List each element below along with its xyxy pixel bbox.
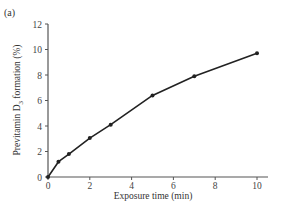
axes (48, 24, 268, 177)
data-point (151, 93, 155, 97)
x-tick-label: 4 (129, 181, 134, 191)
line-chart: (a) 024681012 0246810 Exposure time (min… (0, 0, 282, 222)
x-axis-ticks: 0246810 (46, 177, 262, 191)
x-tick-label: 2 (87, 181, 92, 191)
x-tick-label: 10 (252, 181, 262, 191)
x-axis-label: Exposure time (min) (114, 191, 193, 202)
data-point (67, 152, 71, 156)
data-point (109, 123, 113, 127)
data-series (46, 51, 259, 179)
x-tick-label: 6 (171, 181, 176, 191)
y-axis-label-pre: Previtamin D (12, 104, 22, 155)
x-tick-label: 0 (46, 181, 51, 191)
x-tick-label: 8 (213, 181, 218, 191)
y-tick-label: 0 (37, 173, 42, 183)
data-point (46, 175, 50, 179)
y-tick-label: 8 (37, 71, 42, 81)
y-tick-label: 2 (37, 147, 42, 157)
panel-label: (a) (4, 7, 15, 19)
y-axis-label: Previtamin D3 formation (%) (12, 45, 25, 156)
series-line (48, 53, 257, 177)
y-axis-label-post: formation (%) (12, 45, 23, 101)
y-tick-label: 6 (37, 96, 42, 106)
data-point (255, 51, 259, 55)
data-point (192, 74, 196, 78)
y-tick-label: 4 (37, 122, 42, 132)
y-tick-label: 10 (33, 45, 43, 55)
y-tick-label: 12 (33, 20, 43, 30)
y-axis-ticks: 024681012 (33, 20, 49, 183)
data-point (56, 160, 60, 164)
data-point (88, 136, 92, 140)
